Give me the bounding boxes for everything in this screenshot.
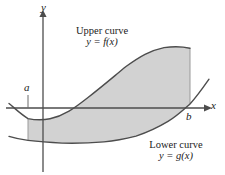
lower-curve-equation: y = g(x)	[135, 150, 217, 161]
upper-curve-equation: y = f(x)	[63, 36, 141, 47]
lower-curve-annotation: Lower curve y = g(x)	[135, 139, 217, 161]
x-axis-label: x	[211, 100, 216, 112]
lower-bound-label-a: a	[24, 82, 30, 94]
upper-bound-label-b: b	[186, 111, 192, 123]
upper-curve-title: Upper curve	[63, 25, 141, 36]
y-axis-label: y	[41, 2, 46, 14]
upper-curve-annotation: Upper curve y = f(x)	[63, 25, 141, 47]
lower-curve-title: Lower curve	[135, 139, 217, 150]
area-between-curves-figure: y x a b Upper curve y = f(x) Lower curve…	[0, 0, 225, 175]
shaded-region	[28, 47, 190, 143]
